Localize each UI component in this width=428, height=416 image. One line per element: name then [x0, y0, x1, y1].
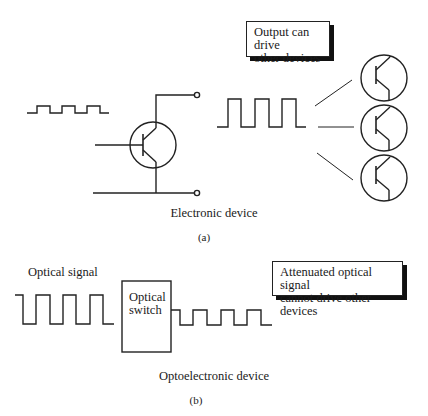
fanout-line-1 — [315, 80, 352, 106]
caption-electronic-device: Electronic device — [170, 206, 257, 220]
callout-attenuated-signal: Attenuated optical signal cannot drive o… — [272, 261, 403, 296]
switch-line-2: switch — [129, 304, 166, 317]
output-square-wave — [217, 99, 306, 127]
fanout-line-3 — [317, 153, 353, 180]
attenuated-output-wave — [171, 310, 272, 325]
callout-output-can-drive: Output can drive other devices — [246, 21, 330, 57]
transistor-icon — [93, 92, 200, 195]
callout-line-2: other devices — [254, 52, 323, 65]
load-transistor-icon-2 — [361, 105, 407, 151]
input-square-wave — [27, 106, 109, 113]
callout-line-1: Attenuated optical signal — [280, 266, 396, 292]
sublabel-b: (b) — [190, 393, 203, 407]
load-transistor-icon-3 — [361, 155, 407, 201]
sublabel-a: (a) — [198, 230, 210, 244]
callout-line-2: cannot drive other devices — [280, 292, 396, 318]
load-transistor-icon-1 — [361, 55, 407, 101]
optical-input-wave — [15, 295, 114, 324]
callout-line-1: Output can drive — [254, 26, 323, 52]
caption-optoelectronic-device: Optoelectronic device — [159, 369, 269, 383]
optical-signal-label: Optical signal — [28, 265, 98, 279]
optical-switch-label: Optical switch — [129, 291, 166, 317]
